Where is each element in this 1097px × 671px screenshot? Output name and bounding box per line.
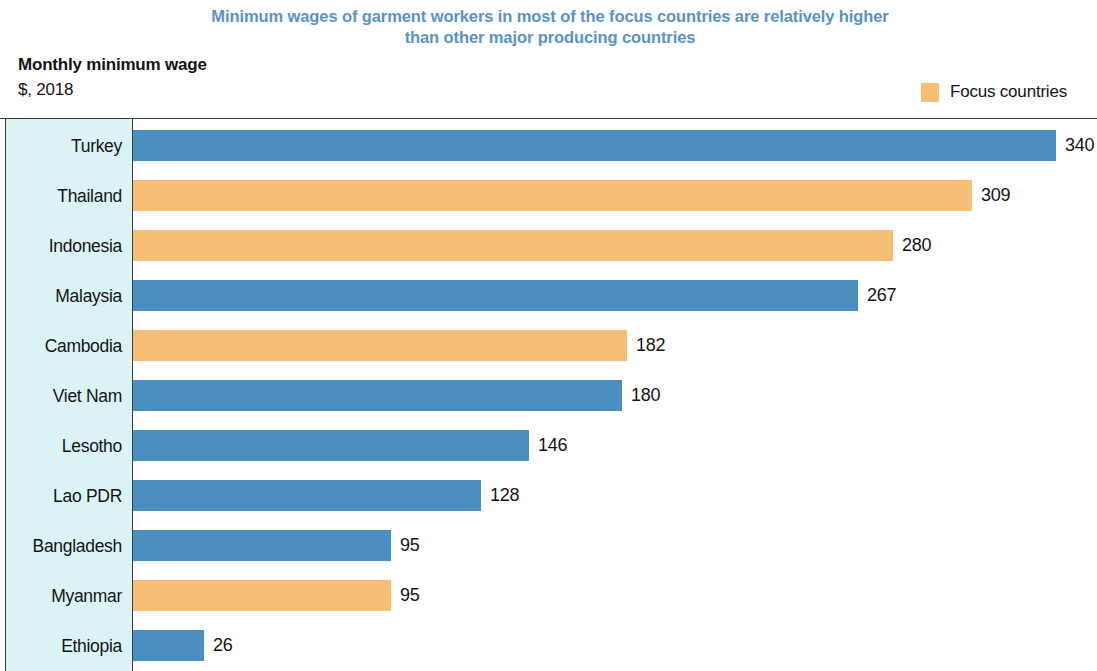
bar-row: 95 [133,521,1097,571]
bar-other-country [133,130,1056,161]
category-label: Ethiopia [61,621,122,671]
bar-row: 146 [133,421,1097,471]
bar-focus-country [133,180,972,211]
bar-value-label: 128 [490,480,519,511]
chart-title-line-1: Minimum wages of garment workers in most… [130,6,970,27]
bar-value-label: 95 [400,580,420,611]
category-label: Lesotho [62,421,122,471]
category-label: Indonesia [49,221,122,271]
bar-row: 309 [133,171,1097,221]
bar-value-label: 26 [213,630,233,661]
category-label: Cambodia [45,321,122,371]
chart-frame: TurkeyThailandIndonesiaMalaysiaCambodiaV… [0,118,1097,671]
bar-focus-country [133,580,391,611]
bar-row: 128 [133,471,1097,521]
bar-row: 26 [133,621,1097,671]
category-label: Lao PDR [53,471,122,521]
category-label: Malaysia [55,271,122,321]
bar-focus-country [133,330,627,361]
axis-caption-units: $, 2018 [18,77,438,103]
category-label: Bangladesh [33,521,122,571]
bar-other-country [133,380,622,411]
bar-focus-country [133,230,893,261]
legend-label-focus-countries: Focus countries [950,82,1067,102]
bar-value-label: 280 [902,230,931,261]
bar-other-country [133,630,204,661]
bar-row: 95 [133,571,1097,621]
bar-value-label: 95 [400,530,420,561]
bar-row: 340 [133,121,1097,171]
bar-value-label: 180 [631,380,660,411]
bar-row: 267 [133,271,1097,321]
bar-other-country [133,530,391,561]
bar-other-country [133,280,858,311]
bar-row: 182 [133,321,1097,371]
bar-row: 280 [133,221,1097,271]
bar-value-label: 182 [636,330,665,361]
chart-legend: Focus countries [921,82,1067,102]
axis-caption-main: Monthly minimum wage [18,52,438,77]
chart-title: Minimum wages of garment workers in most… [130,6,970,48]
plot-area: 340309280267182180146128959526 [133,119,1097,671]
legend-swatch-focus-countries [921,83,939,102]
bar-value-label: 340 [1065,130,1094,161]
category-label: Thailand [57,171,122,221]
category-label-panel: TurkeyThailandIndonesiaMalaysiaCambodiaV… [5,119,133,671]
bar-other-country [133,480,481,511]
category-label: Myanmar [51,571,122,621]
chart-title-line-2: than other major producing countries [130,27,970,48]
bar-value-label: 267 [867,280,896,311]
bar-value-label: 146 [538,430,567,461]
category-label: Turkey [71,121,122,171]
axis-caption: Monthly minimum wage $, 2018 [18,52,438,103]
category-label: Viet Nam [53,371,122,421]
bar-other-country [133,430,529,461]
bar-row: 180 [133,371,1097,421]
bar-value-label: 309 [981,180,1010,211]
